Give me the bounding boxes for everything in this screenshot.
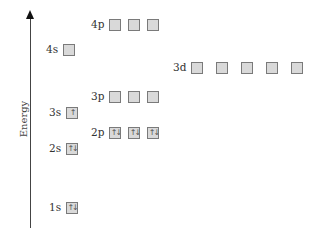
orbital-label: 2p <box>91 126 104 139</box>
electron-pair-icon: ↑↓ <box>130 128 139 138</box>
electron-pair-icon: ↑↓ <box>67 203 76 213</box>
orbital-box <box>191 62 203 74</box>
orbital-level-1s: 1s↑↓ <box>49 201 78 214</box>
orbital-box <box>63 44 75 56</box>
arrow-up-icon <box>26 10 34 19</box>
orbital-box <box>291 62 303 74</box>
orbital-box: ↑↓ <box>128 127 140 139</box>
orbital-label: 1s <box>49 201 61 214</box>
orbital-box <box>241 62 253 74</box>
axis-label: Energy <box>17 99 31 139</box>
orbital-level-3d: 3d <box>173 61 303 74</box>
orbital-box: ↑↓ <box>147 127 159 139</box>
orbital-label: 2s <box>49 142 61 155</box>
orbital-level-4s: 4s <box>46 43 75 56</box>
orbital-level-4p: 4p <box>91 18 159 31</box>
orbital-label: 4s <box>46 43 58 56</box>
electron-pair-icon: ↑↓ <box>111 128 120 138</box>
orbital-box: ↑↓ <box>66 143 78 155</box>
orbital-label: 3p <box>91 90 104 103</box>
orbital-box <box>128 91 140 103</box>
orbital-box: ↑↓ <box>66 202 78 214</box>
orbital-box <box>266 62 278 74</box>
orbital-label: 4p <box>91 18 104 31</box>
orbital-label: 3s <box>49 106 61 119</box>
orbital-level-2p: 2p↑↓↑↓↑↓ <box>91 126 159 139</box>
orbital-box: ↑↓ <box>109 127 121 139</box>
electron-pair-icon: ↑↓ <box>149 128 158 138</box>
orbital-box: ↑ <box>66 107 78 119</box>
orbital-box <box>109 19 121 31</box>
orbital-level-3p: 3p <box>91 90 159 103</box>
orbital-level-2s: 2s↑↓ <box>49 142 78 155</box>
orbital-box <box>147 19 159 31</box>
orbital-box <box>128 19 140 31</box>
orbital-box <box>216 62 228 74</box>
electron-up-icon: ↑ <box>70 108 75 118</box>
orbital-box <box>109 91 121 103</box>
orbital-level-3s: 3s↑ <box>49 106 78 119</box>
orbital-box <box>147 91 159 103</box>
electron-pair-icon: ↑↓ <box>67 144 76 154</box>
orbital-label: 3d <box>173 61 186 74</box>
